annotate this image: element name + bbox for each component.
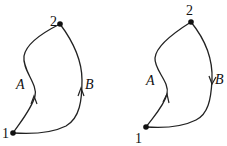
left-label-point-2: 2 [50,14,57,29]
left-label-point-1: 1 [2,126,9,141]
right-point-2 [188,19,194,25]
left-diagram: 1 2 A B [2,14,94,141]
diagram-canvas: 1 2 A B 1 2 A B [0,0,227,146]
right-point-1 [143,124,149,130]
right-path-b [146,22,212,127]
right-diagram: 1 2 A B [135,3,224,146]
right-label-path-b: B [215,72,224,87]
right-label-path-a: A [145,73,155,88]
left-label-path-a: A [15,77,25,92]
left-point-1 [10,130,16,136]
left-label-path-b: B [85,77,94,92]
right-label-point-1: 1 [135,131,142,146]
right-label-point-2: 2 [186,3,193,18]
left-point-2 [57,21,63,27]
